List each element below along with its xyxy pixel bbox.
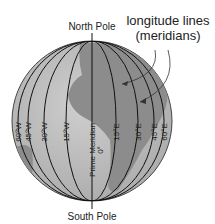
north-pole-label: North Pole xyxy=(68,21,116,32)
meridian-label: 45°W xyxy=(24,122,33,142)
meridian-label: 45°E xyxy=(150,123,159,140)
prime-meridian-degree: 0° xyxy=(96,146,105,154)
title-line-2: (meridians) xyxy=(135,28,200,43)
south-america-land xyxy=(12,145,33,190)
south-pole-label: South Pole xyxy=(68,211,117,222)
meridian-label: 60°W xyxy=(14,122,23,142)
meridian-label: 30°W xyxy=(40,122,49,142)
meridian-label: 15°W xyxy=(62,122,71,142)
meridian-label: 15°E xyxy=(112,123,121,140)
title-line-1: longitude lines xyxy=(126,13,210,28)
meridian-label: 60°E xyxy=(160,123,169,140)
meridian-label: 30°E xyxy=(134,123,143,140)
globe-diagram: 60°W45°W30°W15°WPrime Meridian0°15°E30°E… xyxy=(0,0,215,224)
